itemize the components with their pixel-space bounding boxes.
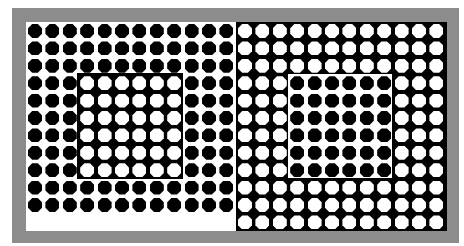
dot bbox=[325, 94, 339, 108]
dot bbox=[80, 41, 94, 55]
dot bbox=[238, 146, 252, 160]
dot bbox=[115, 128, 129, 142]
dot bbox=[412, 59, 426, 73]
dot bbox=[308, 181, 322, 195]
dot bbox=[360, 181, 374, 195]
dot bbox=[167, 181, 181, 195]
dot bbox=[115, 24, 129, 38]
dot bbox=[255, 41, 269, 55]
dot bbox=[202, 163, 216, 177]
dot bbox=[273, 128, 287, 142]
dot bbox=[360, 215, 374, 229]
dot bbox=[28, 146, 42, 160]
dot bbox=[167, 41, 181, 55]
dot bbox=[290, 76, 304, 90]
left-panel-inner-block bbox=[77, 73, 182, 178]
dot bbox=[342, 163, 356, 177]
dot bbox=[98, 59, 112, 73]
dot bbox=[150, 181, 164, 195]
dot bbox=[185, 59, 199, 73]
dot bbox=[202, 146, 216, 160]
dot bbox=[395, 215, 409, 229]
dot bbox=[342, 94, 356, 108]
dot bbox=[132, 59, 146, 73]
dot bbox=[325, 128, 339, 142]
dot bbox=[219, 59, 233, 73]
dot bbox=[185, 111, 199, 125]
dot bbox=[255, 94, 269, 108]
dot bbox=[219, 146, 233, 160]
dot bbox=[325, 59, 339, 73]
dot bbox=[80, 163, 94, 177]
dot bbox=[429, 146, 443, 160]
dot bbox=[395, 146, 409, 160]
dot bbox=[290, 128, 304, 142]
dot bbox=[63, 163, 77, 177]
dot bbox=[308, 24, 322, 38]
dot bbox=[132, 94, 146, 108]
dot bbox=[290, 198, 304, 212]
dot bbox=[429, 94, 443, 108]
dot bbox=[63, 59, 77, 73]
dot bbox=[202, 128, 216, 142]
dot bbox=[342, 24, 356, 38]
dot bbox=[45, 24, 59, 38]
dot bbox=[308, 59, 322, 73]
dot bbox=[185, 198, 199, 212]
dot bbox=[202, 94, 216, 108]
dot bbox=[429, 24, 443, 38]
dot bbox=[115, 146, 129, 160]
dot bbox=[63, 181, 77, 195]
dot bbox=[185, 181, 199, 195]
dot bbox=[429, 76, 443, 90]
dot bbox=[342, 198, 356, 212]
dot bbox=[150, 41, 164, 55]
dot bbox=[342, 128, 356, 142]
dot bbox=[429, 163, 443, 177]
dot bbox=[429, 198, 443, 212]
dot bbox=[395, 76, 409, 90]
dot bbox=[273, 198, 287, 212]
dot bbox=[395, 24, 409, 38]
dot bbox=[185, 146, 199, 160]
dot bbox=[115, 163, 129, 177]
dot bbox=[360, 24, 374, 38]
dot bbox=[45, 146, 59, 160]
dot bbox=[255, 163, 269, 177]
dot bbox=[202, 111, 216, 125]
dot bbox=[360, 163, 374, 177]
dot bbox=[412, 76, 426, 90]
dot bbox=[45, 76, 59, 90]
dot bbox=[98, 146, 112, 160]
dot bbox=[342, 76, 356, 90]
dot bbox=[395, 128, 409, 142]
dot bbox=[325, 215, 339, 229]
dot bbox=[412, 94, 426, 108]
dot bbox=[360, 41, 374, 55]
dot bbox=[150, 94, 164, 108]
dot bbox=[167, 163, 181, 177]
dot bbox=[308, 215, 322, 229]
dot bbox=[360, 128, 374, 142]
dot bbox=[325, 41, 339, 55]
dot bbox=[290, 146, 304, 160]
dot bbox=[63, 76, 77, 90]
dot bbox=[98, 41, 112, 55]
dot bbox=[98, 198, 112, 212]
dot bbox=[219, 24, 233, 38]
dot bbox=[45, 41, 59, 55]
dot bbox=[185, 24, 199, 38]
dot bbox=[308, 146, 322, 160]
dot bbox=[219, 41, 233, 55]
dot bbox=[219, 76, 233, 90]
dot bbox=[185, 94, 199, 108]
dot bbox=[342, 215, 356, 229]
dot bbox=[167, 146, 181, 160]
dot bbox=[360, 111, 374, 125]
dot bbox=[185, 163, 199, 177]
dot bbox=[255, 111, 269, 125]
dot bbox=[185, 41, 199, 55]
dot bbox=[273, 24, 287, 38]
dot bbox=[238, 111, 252, 125]
gray-frame bbox=[12, 8, 459, 243]
